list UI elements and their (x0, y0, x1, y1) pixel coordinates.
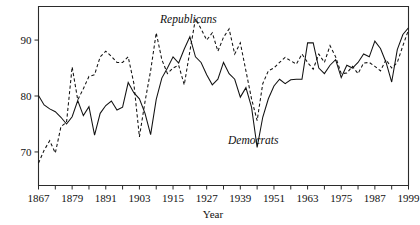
democrats-annotation: Democrats (227, 134, 279, 146)
y-axis-ticks (35, 40, 39, 152)
x-axis-title: Year (203, 208, 224, 220)
x-tick-label: 1903 (128, 192, 151, 204)
chart-container: 708090 186718791891190319151927193919511… (0, 0, 420, 225)
y-tick-label: 80 (21, 90, 33, 102)
plot-border (39, 7, 409, 186)
x-tick-label: 1987 (364, 192, 387, 204)
x-tick-label: 1879 (61, 192, 84, 204)
x-tick-label: 1927 (196, 192, 219, 204)
plot-frame (39, 7, 409, 186)
x-tick-label: 1915 (162, 192, 185, 204)
series-line-republicans (39, 19, 409, 163)
x-tick-label: 1975 (330, 192, 353, 204)
y-axis-labels: 708090 (21, 34, 33, 158)
series-line-democrats (39, 28, 409, 148)
x-tick-label: 1939 (229, 192, 252, 204)
x-tick-label: 1891 (95, 192, 117, 204)
y-tick-label: 90 (21, 34, 33, 46)
x-tick-label: 1951 (263, 192, 285, 204)
data-series-group (39, 19, 409, 163)
x-axis-labels: 1867187918911903191519271939195119631975… (28, 192, 420, 204)
x-tick-label: 1867 (28, 192, 51, 204)
republicans-annotation: Republicans (159, 13, 217, 26)
line-chart: 708090 186718791891190319151927193919511… (0, 0, 420, 225)
x-axis-ticks (39, 186, 409, 190)
x-tick-label: 1999 (398, 192, 420, 204)
y-tick-label: 70 (21, 146, 33, 158)
x-tick-label: 1963 (297, 192, 320, 204)
